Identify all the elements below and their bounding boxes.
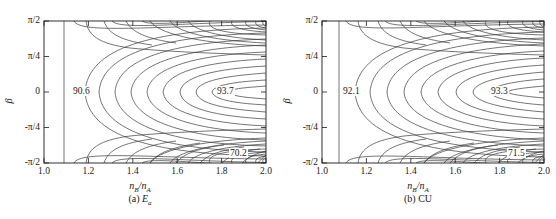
contour-lines-a bbox=[64, 18, 266, 166]
panel-b-xaxis-title: nB/nA bbox=[388, 180, 448, 194]
panel-b-xtick-1: 1.2 bbox=[350, 166, 382, 176]
panel-b-contour-label-2: 71.5 bbox=[507, 148, 526, 158]
panel-a-xtick-4: 1.8 bbox=[206, 166, 238, 176]
panel-b: π/2 π/4 0 -π/4 -π/2 1.0 1.2 1.4 1.6 1.8 … bbox=[278, 0, 556, 219]
panel-b-caption-symbol: CU bbox=[418, 193, 432, 204]
figure-root: π/2 π/4 0 -π/4 -π/2 1.0 1.2 1.4 1.6 1.8 … bbox=[0, 0, 556, 219]
panel-a-ytick-0: π/2 bbox=[8, 15, 40, 25]
panel-a-xtick-1: 1.2 bbox=[72, 166, 104, 176]
panel-a-caption-sub: a bbox=[148, 199, 152, 207]
panel-b-xtick-4: 1.8 bbox=[484, 166, 516, 176]
panel-b-ytick-0: π/2 bbox=[286, 15, 318, 25]
panel-b-xtick-5: 2.0 bbox=[528, 166, 556, 176]
panel-b-contour-label-0: 92.1 bbox=[342, 86, 361, 96]
panel-a: π/2 π/4 0 -π/4 -π/2 1.0 1.2 1.4 1.6 1.8 … bbox=[0, 0, 278, 219]
panel-b-yaxis-title: β bbox=[281, 80, 292, 104]
panel-b-ytick-1: π/4 bbox=[286, 51, 318, 61]
panel-a-xtick-3: 1.6 bbox=[161, 166, 193, 176]
panel-a-xaxis-title: nB/nA bbox=[110, 180, 170, 194]
panel-a-ytick-1: π/4 bbox=[8, 51, 40, 61]
panel-b-caption-prefix: (b) bbox=[404, 193, 416, 204]
panel-a-caption-prefix: (a) bbox=[128, 193, 139, 204]
panel-b-ytick-3: -π/4 bbox=[286, 122, 318, 132]
panel-a-xtick-2: 1.4 bbox=[117, 166, 149, 176]
panel-a-caption: (a) Ea bbox=[110, 193, 170, 207]
panel-a-contour-label-1: 93.7 bbox=[216, 86, 235, 96]
panel-b-caption: (b) CU bbox=[388, 193, 448, 204]
panel-b-contour-label-1: 93.3 bbox=[490, 86, 509, 96]
panel-a-contour-label-2: 70.2 bbox=[229, 148, 248, 158]
panel-b-xtick-2: 1.4 bbox=[395, 166, 427, 176]
panel-a-contour-label-0: 90.6 bbox=[72, 86, 91, 96]
panel-b-xtick-3: 1.6 bbox=[439, 166, 471, 176]
panel-a-xtick-0: 1.0 bbox=[28, 166, 60, 176]
contour-lines-b bbox=[339, 18, 544, 166]
panel-b-xtick-0: 1.0 bbox=[306, 166, 338, 176]
panel-a-yaxis-title: β bbox=[3, 80, 14, 104]
panel-a-ytick-3: -π/4 bbox=[8, 122, 40, 132]
